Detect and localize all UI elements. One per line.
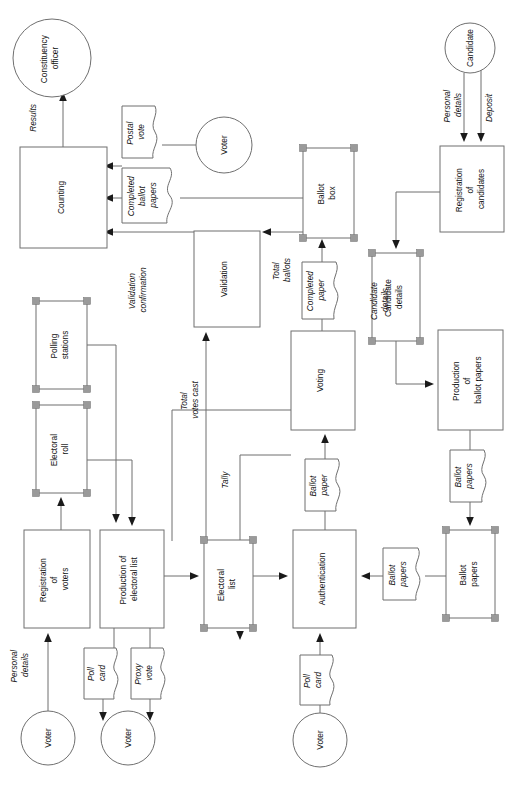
datastore-electoral-roll-line-1: roll: [60, 443, 70, 454]
entity-voter-postal-line-0: Voter: [219, 135, 229, 155]
selection-handle[interactable]: [33, 402, 40, 409]
selection-handle[interactable]: [369, 338, 376, 345]
flow-label-validation-confirmation: Validation confirmation: [127, 267, 148, 313]
document-postal-vote[interactable]: Postal vote: [122, 106, 157, 158]
datastore-electoral-list[interactable]: Electoral list: [201, 537, 257, 632]
document-ballot-papers-prod-line-1: papers: [464, 463, 474, 489]
selection-handle[interactable]: [300, 235, 307, 242]
document-ballot-papers-auth-line-0: Ballot: [387, 564, 397, 585]
process-reg-candidates-line-0: Registration: [454, 168, 464, 213]
datastore-electoral-list-line-0: Electoral: [216, 569, 226, 601]
selection-handle[interactable]: [33, 490, 40, 497]
selection-handle[interactable]: [492, 527, 499, 534]
flow-label-candidate-details-line-0: Candidate: [369, 282, 379, 320]
selection-handle[interactable]: [84, 490, 91, 497]
selection-handle[interactable]: [250, 537, 257, 544]
process-reg-candidates-line-2: candidates: [476, 169, 486, 209]
datastore-electoral-roll[interactable]: Electoral roll: [33, 402, 91, 497]
process-registration-of-voters[interactable]: Registration of voters: [24, 530, 90, 628]
entity-voter-register[interactable]: Voter: [21, 711, 75, 765]
entity-voter-auth-line-0: Voter: [315, 730, 325, 750]
document-poll-card-auth-line-0: Poll: [302, 673, 312, 688]
document-poll-card-to-authentication[interactable]: Poll card: [300, 655, 334, 705]
process-prod-list-line-0: Production of: [118, 555, 128, 605]
flow-label-total-ballots: Total ballots: [271, 258, 292, 282]
document-completed-paper-line-0: Completed: [305, 271, 315, 312]
process-reg-voters-line-2: voters: [60, 568, 70, 591]
flow-label-validation-confirmation-line-0: Validation: [127, 273, 137, 310]
entity-voter-auth[interactable]: Voter: [293, 713, 347, 767]
process-counting-line-0: Counting: [56, 181, 66, 215]
selection-handle[interactable]: [300, 145, 307, 152]
selection-handle[interactable]: [84, 298, 91, 305]
entity-voter-cards[interactable]: Voter: [101, 711, 155, 765]
document-postal-vote-line-1: vote: [136, 124, 146, 140]
document-completed-paper[interactable]: Completed paper: [302, 262, 338, 319]
selection-handle[interactable]: [443, 527, 450, 534]
flow-label-personal-details-voter-line-1: details: [20, 653, 30, 677]
datastore-ballot-box[interactable]: Ballot box: [300, 145, 358, 242]
selection-handle[interactable]: [492, 615, 499, 622]
selection-handle[interactable]: [443, 615, 450, 622]
svg-text:Poll card: Poll card: [86, 665, 107, 682]
selection-handle[interactable]: [351, 145, 358, 152]
flow-label-deposit-line-0: Deposit: [484, 93, 494, 122]
selection-handle[interactable]: [33, 386, 40, 393]
datastore-polling-stations[interactable]: Polling stations: [33, 298, 91, 393]
svg-text:Ballot papers: Ballot papers: [453, 463, 474, 489]
selection-handle[interactable]: [417, 250, 424, 257]
selection-handle[interactable]: [201, 537, 208, 544]
document-ballot-papers-from-production[interactable]: Ballot papers: [450, 450, 486, 502]
document-proxy-vote-line-0: Proxy: [133, 663, 143, 685]
process-registration-of-candidates[interactable]: Registration of candidates: [440, 146, 504, 232]
selection-handle[interactable]: [250, 625, 257, 632]
diagram-canvas: Counting Validation Voting: [0, 0, 518, 785]
document-completed-ballot-papers[interactable]: Completed ballot papers: [122, 168, 172, 223]
process-reg-candidates-line-1: of: [465, 186, 475, 194]
entity-candidate[interactable]: Candidate: [445, 23, 495, 73]
datastore-polling-stations-line-0: Polling: [49, 333, 59, 358]
svg-text:Voter: Voter: [123, 728, 133, 748]
selection-handle[interactable]: [351, 235, 358, 242]
selection-handle[interactable]: [369, 250, 376, 257]
process-prod-list-line-1: electoral list: [129, 556, 139, 601]
svg-text:Validation: Validation: [219, 261, 229, 297]
flow-label-personal-details-voter: Personal details: [9, 647, 30, 682]
svg-text:Polling stations: Polling stations: [49, 331, 70, 360]
process-production-of-electoral-list[interactable]: Production of electoral list: [100, 530, 164, 628]
document-poll-card-auth-line-1: card: [313, 672, 323, 689]
svg-text:Ballot papers: Ballot papers: [458, 561, 479, 586]
flow-label-personal-details-candidate: Personal details: [442, 87, 463, 122]
selection-handle[interactable]: [33, 298, 40, 305]
document-ballot-paper[interactable]: Ballot paper: [305, 459, 340, 511]
document-proxy-vote[interactable]: Proxy vote: [131, 648, 165, 699]
process-validation[interactable]: Validation: [194, 231, 260, 327]
flow-label-tally: Tally: [220, 471, 230, 489]
entity-constituency-officer[interactable]: Constituency officer: [13, 19, 91, 97]
datastore-ballot-box-line-1: box: [327, 185, 337, 199]
process-authentication[interactable]: Authentication: [293, 530, 356, 628]
process-production-of-ballot-papers[interactable]: Production of ballot papers: [438, 330, 503, 430]
flow-label-total-votes-cast-line-0: Total: [179, 391, 189, 410]
selection-handle[interactable]: [84, 402, 91, 409]
process-counting[interactable]: Counting: [20, 147, 107, 248]
datastore-ballot-papers[interactable]: Ballot papers: [443, 527, 499, 622]
document-poll-card-voter-line-0: Poll: [86, 666, 96, 681]
selection-handle[interactable]: [201, 625, 208, 632]
entity-voter-register-line-0: Voter: [43, 728, 53, 748]
flow-label-total-ballots-line-0: Total: [271, 261, 281, 280]
svg-text:Voter: Voter: [43, 728, 53, 748]
document-completed-paper-line-1: paper: [316, 278, 326, 301]
flow-label-validation-confirmation-line-1: confirmation: [138, 267, 148, 313]
datastore-ballot-box-line-0: Ballot: [316, 183, 326, 204]
flow-label-personal-details-voter-line-0: Personal: [9, 649, 19, 683]
process-voting[interactable]: Voting: [291, 331, 355, 430]
flow-label-personal-details-candidate-line-1: details: [453, 93, 463, 117]
entity-voter-postal[interactable]: Voter: [196, 117, 252, 173]
document-ballot-paper-line-1: paper: [319, 473, 329, 496]
document-ballot-papers-to-authentication[interactable]: Ballot papers: [383, 548, 420, 600]
selection-handle[interactable]: [84, 386, 91, 393]
selection-handle[interactable]: [417, 338, 424, 345]
document-poll-card-to-voter[interactable]: Poll card: [84, 648, 118, 699]
process-prod-ballot-line-2: ballot papers: [473, 356, 483, 404]
